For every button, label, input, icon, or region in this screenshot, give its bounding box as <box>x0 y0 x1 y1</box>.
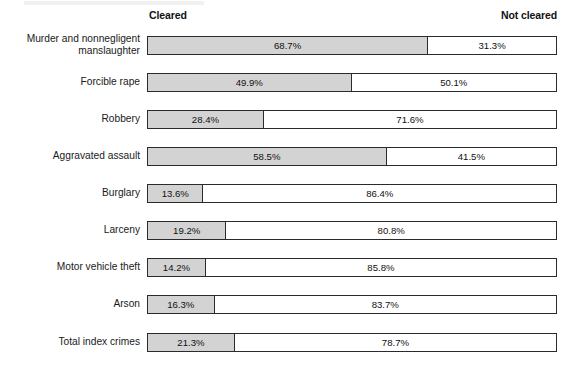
bar-value-cleared: 49.9% <box>236 78 263 88</box>
bar-value-not-cleared: 83.7% <box>372 300 399 310</box>
bar-track: 68.7%31.3% <box>147 36 557 55</box>
row-category-label: Forcible rape <box>0 76 140 88</box>
bar-value-cleared: 68.7% <box>274 41 301 51</box>
bar-segment-not-cleared: 83.7% <box>215 296 557 313</box>
chart-row: Total index crimes21.3%78.7% <box>0 333 583 352</box>
row-category-label: Robbery <box>0 113 140 125</box>
bar-segment-cleared: 13.6% <box>148 185 203 202</box>
row-category-label: Total index crimes <box>0 336 140 348</box>
chart-row: Arson16.3%83.7% <box>0 295 583 314</box>
bar-segment-not-cleared: 80.8% <box>226 222 556 239</box>
bar-value-cleared: 16.3% <box>167 300 194 310</box>
row-category-label: Larceny <box>0 224 140 236</box>
row-category-label: Motor vehicle theft <box>0 261 140 273</box>
bar-value-not-cleared: 41.5% <box>458 152 485 162</box>
bar-track: 13.6%86.4% <box>147 184 557 203</box>
bar-value-not-cleared: 71.6% <box>396 115 423 125</box>
scan-artifact <box>24 1 204 5</box>
chart-legend-header: Cleared Not cleared <box>0 9 583 24</box>
chart-row: Forcible rape49.9%50.1% <box>0 73 583 92</box>
bar-segment-cleared: 68.7% <box>148 37 428 54</box>
bar-segment-not-cleared: 71.6% <box>264 111 556 128</box>
bar-value-cleared: 28.4% <box>192 115 219 125</box>
row-category-label: Arson <box>0 298 140 310</box>
bar-track: 19.2%80.8% <box>147 221 557 240</box>
chart-row: Robbery28.4%71.6% <box>0 110 583 129</box>
bar-value-cleared: 13.6% <box>162 189 189 199</box>
bar-track: 49.9%50.1% <box>147 73 557 92</box>
bar-segment-cleared: 58.5% <box>148 148 387 165</box>
bar-value-not-cleared: 86.4% <box>366 189 393 199</box>
bar-value-not-cleared: 85.8% <box>367 263 394 273</box>
bar-segment-cleared: 28.4% <box>148 111 264 128</box>
bar-segment-not-cleared: 85.8% <box>206 259 556 276</box>
legend-label-not-cleared: Not cleared <box>501 9 557 22</box>
legend-label-cleared: Cleared <box>149 9 187 22</box>
bar-segment-not-cleared: 41.5% <box>387 148 556 165</box>
bar-value-cleared: 14.2% <box>163 263 190 273</box>
bar-segment-cleared: 16.3% <box>148 296 215 313</box>
bar-value-cleared: 58.5% <box>253 152 280 162</box>
row-category-label: Burglary <box>0 187 140 199</box>
bar-segment-cleared: 19.2% <box>148 222 226 239</box>
bar-value-not-cleared: 50.1% <box>440 78 467 88</box>
row-category-label: Aggravated assault <box>0 150 140 162</box>
bar-track: 58.5%41.5% <box>147 147 557 166</box>
bar-value-not-cleared: 31.3% <box>479 41 506 51</box>
chart-row: Burglary13.6%86.4% <box>0 184 583 203</box>
bar-segment-not-cleared: 31.3% <box>428 37 556 54</box>
chart-row: Murder and nonnegligent manslaughter68.7… <box>0 36 583 55</box>
bar-segment-cleared: 21.3% <box>148 334 235 351</box>
bar-segment-not-cleared: 78.7% <box>235 334 556 351</box>
bar-value-cleared: 19.2% <box>173 226 200 236</box>
chart-row: Larceny19.2%80.8% <box>0 221 583 240</box>
bar-track: 14.2%85.8% <box>147 258 557 277</box>
bar-track: 16.3%83.7% <box>147 295 557 314</box>
bar-segment-not-cleared: 50.1% <box>352 74 556 91</box>
bar-value-not-cleared: 78.7% <box>382 338 409 348</box>
bar-track: 28.4%71.6% <box>147 110 557 129</box>
chart-row: Motor vehicle theft14.2%85.8% <box>0 258 583 277</box>
bar-segment-cleared: 14.2% <box>148 259 206 276</box>
bar-segment-not-cleared: 86.4% <box>203 185 556 202</box>
chart-row: Aggravated assault58.5%41.5% <box>0 147 583 166</box>
row-category-label: Murder and nonnegligent manslaughter <box>0 33 140 56</box>
bar-value-not-cleared: 80.8% <box>378 226 405 236</box>
bar-segment-cleared: 49.9% <box>148 74 352 91</box>
bar-track: 21.3%78.7% <box>147 333 557 352</box>
stacked-bar-chart: Cleared Not cleared Murder and nonneglig… <box>0 0 583 370</box>
bar-value-cleared: 21.3% <box>177 338 204 348</box>
